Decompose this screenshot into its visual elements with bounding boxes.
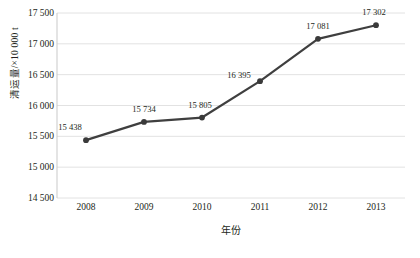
data-point-marker bbox=[83, 137, 89, 143]
y-axis-tick-label: 14 500 bbox=[14, 193, 54, 203]
y-axis-tick-label: 17 000 bbox=[14, 39, 54, 49]
x-axis-tick-label: 2011 bbox=[230, 201, 290, 213]
plot-area bbox=[57, 13, 405, 198]
data-point-markers bbox=[83, 22, 379, 143]
data-series-line bbox=[86, 25, 376, 140]
x-axis-title: 年份 bbox=[57, 222, 405, 237]
data-point-marker bbox=[199, 115, 205, 121]
x-axis-tick-labels: 200820092010201120122013 bbox=[57, 201, 405, 217]
y-axis-tick-label: 15 000 bbox=[14, 162, 54, 172]
data-point-label: 15 438 bbox=[44, 123, 96, 132]
x-axis-tick-label: 2008 bbox=[56, 201, 116, 213]
x-axis-tick-label: 2013 bbox=[346, 201, 406, 213]
data-point-marker bbox=[315, 36, 321, 42]
data-point-marker bbox=[141, 119, 147, 125]
data-point-label: 17 081 bbox=[292, 22, 344, 31]
x-axis-tick-label: 2009 bbox=[114, 201, 174, 213]
plot-svg bbox=[57, 13, 405, 198]
x-axis-tick-label: 2012 bbox=[288, 201, 348, 213]
data-point-label: 17 302 bbox=[348, 8, 400, 17]
y-axis-tick-label: 16 000 bbox=[14, 101, 54, 111]
x-axis-tick-label: 2010 bbox=[172, 201, 232, 213]
data-point-label: 15 734 bbox=[118, 105, 170, 114]
gridlines bbox=[57, 13, 405, 198]
data-point-label: 16 395 bbox=[213, 71, 265, 80]
y-axis-tick-label: 15 500 bbox=[14, 131, 54, 141]
data-point-label: 15 805 bbox=[174, 101, 226, 110]
line-chart-figure: 清运量/×10 000 t 14 50015 00015 50016 00016… bbox=[0, 0, 420, 258]
y-axis-tick-label: 16 500 bbox=[14, 70, 54, 80]
data-point-marker bbox=[373, 22, 379, 28]
y-axis-tick-label: 17 500 bbox=[14, 8, 54, 18]
